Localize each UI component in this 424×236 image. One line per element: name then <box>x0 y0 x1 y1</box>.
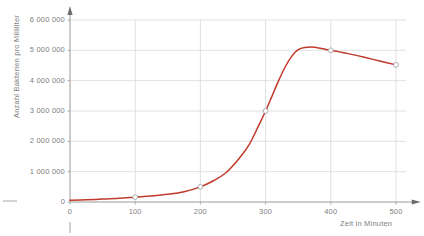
y-axis-tick-label: 1 000 000 <box>30 167 65 176</box>
y-axis-tick-label: 5 000 000 <box>30 45 65 54</box>
y-axis-tick-label: 3 000 000 <box>30 106 65 115</box>
x-axis-tick-label: 300 <box>246 207 286 216</box>
x-axis-tick-label: 200 <box>180 207 220 216</box>
x-axis-tick-label: 400 <box>311 207 351 216</box>
x-axis-tick-label: 0 <box>50 207 90 216</box>
data-point-marker <box>133 195 138 200</box>
y-axis-tick-label: 2 000 000 <box>30 136 65 145</box>
data-point-marker <box>394 62 399 67</box>
data-point-marker <box>328 48 333 53</box>
data-point-marker <box>198 184 203 189</box>
y-axis-tick-label: 0 <box>61 197 65 206</box>
y-axis-arrow-icon <box>67 6 72 15</box>
y-axis-tick-label: 6 000 000 <box>30 15 65 24</box>
axis-lines <box>67 6 420 205</box>
data-point-marker <box>263 109 268 114</box>
data-curve <box>70 47 396 200</box>
y-axis-tick-label: 4 000 000 <box>30 76 65 85</box>
gridlines <box>70 20 406 172</box>
y-axis-title: Anzahl Bakterien pro Milliliter <box>12 0 21 137</box>
x-axis-arrow-icon <box>412 199 421 204</box>
growth-curve-line <box>70 47 396 200</box>
x-axis-tick-label: 500 <box>376 207 416 216</box>
x-axis-tick-label: 100 <box>115 207 155 216</box>
bacteria-growth-chart: 01 000 0002 000 0003 000 0004 000 0005 0… <box>0 0 424 236</box>
x-axis-title: Zeit in Minuten <box>340 219 392 228</box>
